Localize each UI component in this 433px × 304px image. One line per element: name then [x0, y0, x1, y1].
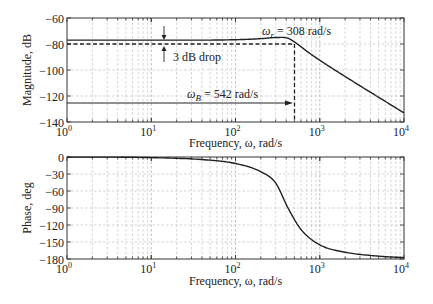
y-tick-label: −80 — [45, 38, 64, 52]
y-tick-label: −100 — [39, 64, 64, 78]
x-tick-label: 103 — [309, 261, 325, 276]
bandwidth-label: ωB = 542 rad/s — [187, 87, 258, 103]
magnitude-plot: 3 dB drop ωr = 308 rad/s ωB = 542 rad/s … — [20, 12, 409, 151]
x-tick-label: 100 — [56, 124, 72, 139]
phase-plot: 0−30−60−90−120−150−180 100101102103104 F… — [20, 151, 409, 289]
phase-y-axis-label: Phase, deg — [20, 182, 34, 233]
magnitude-y-tick-labels: −60−80−100−120−140 — [39, 12, 64, 130]
magnitude-curve — [67, 37, 404, 113]
x-tick-label: 101 — [140, 261, 156, 276]
y-tick-label: −60 — [45, 12, 64, 26]
phase-grid — [67, 157, 404, 259]
bandwidth-arrowhead — [285, 101, 293, 106]
phase-y-tick-labels: 0−30−60−90−120−150−180 — [39, 151, 64, 267]
y-tick-label: −60 — [45, 185, 64, 199]
y-tick-label: −30 — [45, 168, 64, 182]
y-tick-label: −90 — [45, 202, 64, 216]
magnitude-grid — [67, 18, 404, 122]
phase-x-axis-label: Frequency, ω, rad/s — [189, 274, 282, 288]
y-tick-label: −150 — [39, 236, 64, 250]
three-db-drop-label: 3 dB drop — [173, 50, 221, 64]
x-tick-label: 100 — [56, 261, 72, 276]
resonant-frequency-label: ωr = 308 rad/s — [262, 24, 331, 40]
magnitude-y-axis-label: Magnitude, dB — [20, 34, 34, 106]
y-tick-label: −120 — [39, 219, 64, 233]
bode-plot-figure: 3 dB drop ωr = 308 rad/s ωB = 542 rad/s … — [0, 0, 433, 304]
y-tick-label: 0 — [58, 151, 64, 165]
x-tick-label: 101 — [140, 124, 156, 139]
x-tick-label: 104 — [393, 124, 409, 139]
x-tick-label: 103 — [309, 124, 325, 139]
x-tick-label: 104 — [393, 261, 409, 276]
bode-plot-svg: 3 dB drop ωr = 308 rad/s ωB = 542 rad/s … — [0, 0, 433, 304]
magnitude-x-axis-label: Frequency, ω, rad/s — [189, 136, 282, 150]
y-tick-label: −120 — [39, 90, 64, 104]
